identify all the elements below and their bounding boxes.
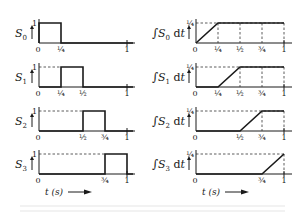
x-tick-label: 0 — [35, 133, 40, 142]
x-tick-label: ¼ — [57, 45, 65, 54]
integral-label: ∫S1 dt — [152, 70, 186, 86]
x-tick-label: ¾ — [101, 133, 109, 142]
x-tick-label: ¼ — [214, 45, 222, 54]
x-tick-label: 1 — [281, 45, 286, 54]
integral-label: ∫S2 dt — [152, 114, 186, 130]
x-tick-label: 0 — [192, 133, 197, 142]
diagram-canvas: 0¼11S00¼½11S10½¾11S20¾11S3t (s)0¼½¾1¼∫S0… — [0, 0, 305, 215]
x-tick-label: ¾ — [258, 45, 266, 54]
time-axis-label: t (s) — [202, 187, 221, 197]
x-tick-label: 1 — [124, 176, 129, 185]
x-tick-label: ¾ — [258, 133, 266, 142]
x-tick-label: 1 — [281, 133, 286, 142]
signal-label: S1 — [15, 71, 27, 86]
pulse-signal — [39, 23, 133, 43]
x-tick-label: 0 — [192, 89, 197, 98]
signal-integral-diagram: 0¼11S00¼½11S10½¾11S20¾11S3t (s)0¼½¾1¼∫S0… — [0, 0, 305, 215]
y-top-label: ¼ — [186, 63, 194, 72]
x-tick-label: 1 — [124, 45, 129, 54]
x-tick-label: 0 — [35, 45, 40, 54]
x-tick-label: ½ — [79, 133, 87, 142]
pulse-signal — [39, 67, 133, 87]
signal-label: S3 — [15, 158, 27, 173]
x-tick-label: ¼ — [214, 89, 222, 98]
x-tick-label: ½ — [236, 133, 244, 142]
x-tick-label: 0 — [35, 176, 40, 185]
y-top-label: ¼ — [186, 150, 194, 159]
x-tick-label: 1 — [124, 89, 129, 98]
x-tick-label: ¼ — [57, 89, 65, 98]
x-tick-label: 1 — [124, 133, 129, 142]
x-tick-label: ½ — [79, 89, 87, 98]
x-tick-label: ¾ — [258, 176, 266, 185]
y-top-label: ¼ — [186, 19, 194, 28]
y-top-label: ¼ — [186, 107, 194, 116]
pulse-signal — [39, 111, 133, 131]
x-tick-label: 0 — [192, 45, 197, 54]
x-tick-label: 1 — [281, 89, 286, 98]
time-axis-label: t (s) — [45, 187, 64, 197]
pulse-signal — [39, 154, 133, 174]
integral-ramp — [196, 111, 284, 131]
x-tick-label: ½ — [236, 45, 244, 54]
integral-label: ∫S3 dt — [152, 157, 186, 173]
signal-label: S2 — [15, 115, 27, 130]
x-tick-label: 0 — [35, 89, 40, 98]
integral-ramp — [196, 154, 284, 174]
x-tick-label: ½ — [236, 89, 244, 98]
arrow-right-icon — [84, 190, 92, 195]
integral-label: ∫S0 dt — [152, 26, 186, 42]
x-tick-label: 1 — [281, 176, 286, 185]
bleed-through-text — [20, 205, 285, 215]
x-tick-label: ¾ — [258, 89, 266, 98]
x-tick-label: ¾ — [101, 176, 109, 185]
arrow-right-icon — [241, 190, 249, 195]
x-tick-label: 0 — [192, 176, 197, 185]
signal-label: S0 — [15, 27, 27, 42]
